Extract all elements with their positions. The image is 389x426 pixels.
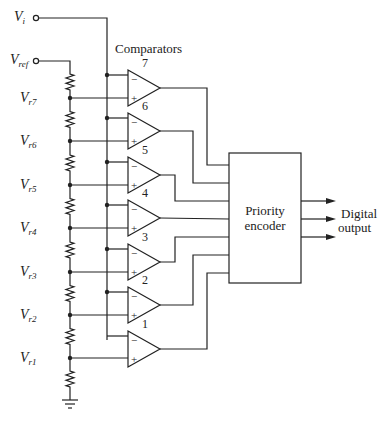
tap-label: Vr3 (20, 264, 37, 281)
output-label-1: Digital (341, 206, 377, 221)
comparator-number: 5 (142, 143, 148, 157)
resistor-icon (66, 358, 74, 400)
tap-label: Vr2 (20, 307, 37, 324)
tap-label: Vr4 (20, 220, 37, 237)
comparator-bank: −+7−+6−+5−+4−+3−+2−+1 (105, 56, 229, 367)
vi-label: Vi (14, 9, 26, 26)
resistor-ladder: Vr7Vr6Vr5Vr4Vr3Vr2Vr1 (20, 66, 128, 408)
tap-label: Vr7 (20, 90, 37, 107)
resistor-icon (66, 185, 74, 228)
arrow-icon (326, 234, 336, 240)
resistor-icon (66, 141, 74, 185)
arrow-icon (326, 216, 336, 222)
minus-sign: − (131, 160, 137, 172)
vref-wire (39, 61, 70, 66)
output-label-2: output (338, 220, 372, 235)
comparator-number: 6 (142, 99, 148, 113)
comparators-title: Comparators (115, 41, 182, 56)
tap-label: Vr6 (20, 133, 37, 150)
digital-output-arrows (301, 198, 336, 240)
resistor-icon (66, 66, 74, 98)
vi-terminal (33, 15, 38, 20)
tap-label: Vr5 (20, 177, 37, 194)
comparator-number: 3 (142, 230, 148, 244)
arrow-icon (326, 198, 336, 204)
comparator-number: 7 (142, 56, 148, 70)
plus-sign: + (131, 266, 137, 278)
comparator-number: 2 (142, 273, 148, 287)
minus-sign: − (131, 247, 137, 259)
minus-sign: − (131, 203, 137, 215)
resistor-icon (66, 98, 74, 141)
plus-sign: + (131, 222, 137, 234)
vref-terminal (33, 58, 38, 63)
plus-sign: + (131, 179, 137, 191)
resistor-icon (66, 272, 74, 315)
plus-sign: + (131, 92, 137, 104)
minus-sign: − (131, 290, 137, 302)
plus-sign: + (131, 135, 137, 147)
vref-label: Vref (10, 52, 30, 69)
comparator-number: 4 (142, 186, 148, 200)
comparator-number: 1 (142, 317, 148, 331)
encoder-label-1: Priority (245, 203, 285, 218)
flash-adc-diagram: Vi Vref Comparators Vr7Vr6Vr5Vr4Vr3Vr2Vr… (0, 0, 389, 426)
encoder-label-2: encoder (244, 218, 286, 233)
resistor-icon (66, 228, 74, 272)
minus-sign: − (131, 73, 137, 85)
resistor-icon (66, 315, 74, 358)
minus-sign: − (131, 116, 137, 128)
tap-label: Vr1 (20, 350, 37, 367)
plus-sign: + (131, 309, 137, 321)
plus-sign: + (131, 353, 137, 365)
minus-sign: − (131, 334, 137, 346)
